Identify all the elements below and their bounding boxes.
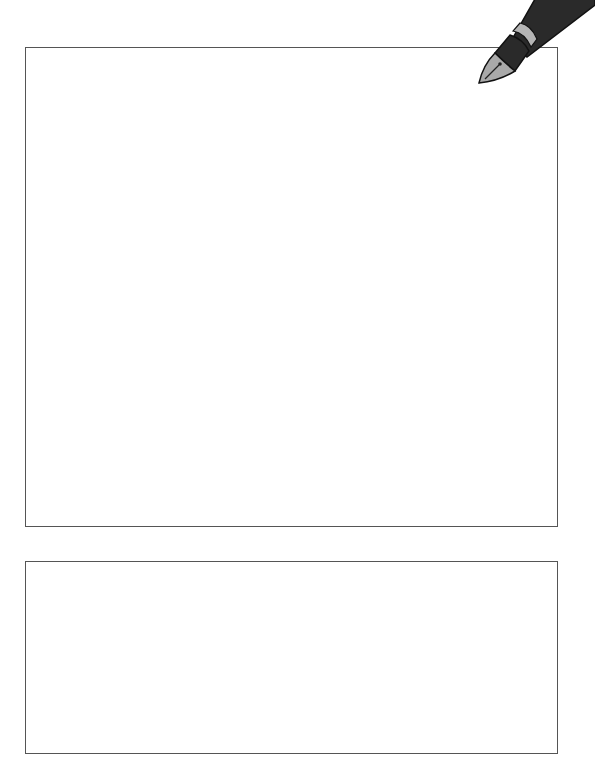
fountain-pen-icon xyxy=(465,0,595,90)
secondary-writing-area[interactable] xyxy=(25,561,558,754)
main-writing-area-text xyxy=(34,56,549,518)
secondary-writing-area-text xyxy=(34,570,549,745)
main-writing-area[interactable] xyxy=(25,47,558,527)
